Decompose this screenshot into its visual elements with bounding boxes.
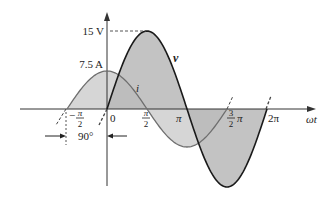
phase-arrow-left-head-icon xyxy=(60,134,66,139)
voltage-peak-label: 15 V xyxy=(83,25,105,37)
tick-neg-pi-half-den: 2 xyxy=(78,119,83,129)
tick-pi-half-den: 2 xyxy=(144,119,149,129)
voltage-curve-label: v xyxy=(173,51,179,65)
phase-shift-label: 90° xyxy=(78,130,93,142)
voltage-start-dash xyxy=(99,109,107,125)
x-axis-label: ωt xyxy=(306,113,318,125)
tick-neg-pi-half-sign: − xyxy=(69,109,75,121)
tick-three-halves-num: 3 xyxy=(229,108,234,118)
voltage-end-dash xyxy=(266,96,271,109)
tick-neg-pi-half-num: π xyxy=(78,108,83,118)
current-peak-label: 7.5 A xyxy=(79,58,103,70)
current-curve-label: i xyxy=(136,82,139,94)
x-axis-arrow-icon xyxy=(307,106,316,112)
y-axis-arrow-icon xyxy=(104,12,110,21)
tick-pi-half-num: π xyxy=(144,108,149,118)
tick-three-halves-pi: π xyxy=(237,112,243,124)
tick-label-zero: 0 xyxy=(110,112,116,124)
current-start-dash xyxy=(56,109,66,125)
tick-label-2pi: 2π xyxy=(268,112,280,124)
tick-label-pi: π xyxy=(176,112,182,124)
waveform-diagram: 15 V 7.5 A v i 0 π 2π ωt − π 2 π 2 3 2 π… xyxy=(0,0,333,200)
phase-arrow-right-head-icon xyxy=(107,134,113,139)
tick-three-halves-den: 2 xyxy=(229,119,234,129)
